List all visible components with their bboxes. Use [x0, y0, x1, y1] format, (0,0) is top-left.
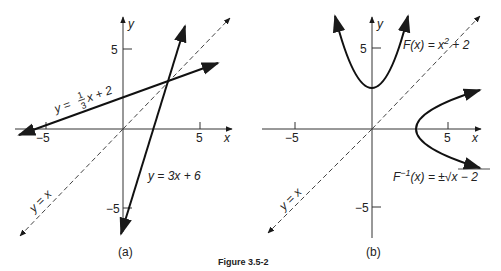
y-tick-label-neg5: −5	[355, 201, 369, 215]
panel-label-b: (b)	[366, 245, 381, 259]
x-tick-label-neg5: −5	[36, 131, 50, 145]
figure-caption: Figure 3.5-2	[218, 257, 269, 267]
x-tick-label-pos5: 5	[196, 131, 203, 145]
y-tick-label-neg5: −5	[106, 202, 120, 216]
x-axis-label: x	[471, 131, 479, 145]
line-3x-plus-6	[121, 26, 185, 234]
x-tick-label-pos5: 5	[444, 131, 451, 145]
x-tick-label-neg5: −5	[285, 131, 299, 145]
identity-line-lower	[20, 129, 123, 236]
label-identity-a: y = x	[26, 186, 55, 215]
y-tick-label-pos5: 5	[111, 43, 118, 57]
line-one-third-x-plus-2	[19, 63, 218, 135]
y-axis-label: y	[376, 17, 384, 31]
x-axis-label: x	[223, 131, 231, 145]
identity-line	[123, 18, 230, 129]
svg-text:1: 1	[76, 90, 84, 101]
label-parabola: F(x) = x2 + 2	[403, 36, 470, 52]
label-inverse: F−1(x) = ±√x − 2	[393, 168, 478, 184]
svg-text:y =: y =	[51, 97, 72, 116]
panel-label-a: (a)	[118, 245, 133, 259]
svg-text:3: 3	[80, 100, 88, 111]
y-axis-label: y	[127, 17, 135, 31]
figure-canvas: −5 5 5 −5 x y y = 1 3 x + 2 y = 3x + 6 y…	[0, 0, 501, 271]
label-identity-b: y = x	[276, 184, 305, 213]
y-tick-label-pos5: 5	[360, 42, 367, 56]
panel-a: −5 5 5 −5 x y y = 1 3 x + 2 y = 3x + 6 y…	[15, 17, 232, 259]
label-one-third-line: y = 1 3 x + 2	[50, 80, 115, 120]
label-3x-plus-6: y = 3x + 6	[147, 169, 201, 183]
identity-line-lower	[268, 129, 372, 233]
panel-b: −5 5 5 −5 x y F(x) = x2 + 2 F−1(x) = ±√x…	[262, 16, 490, 259]
